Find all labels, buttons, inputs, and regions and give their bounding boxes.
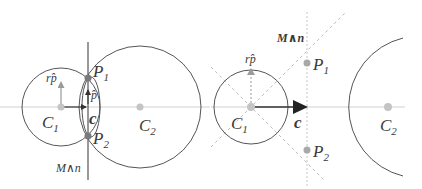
left-label-p2: P2: [92, 129, 109, 150]
left-label-c1: C1: [42, 113, 59, 134]
left-label-p1: P1: [92, 62, 109, 83]
right-c-arrowhead: [293, 100, 308, 114]
left-point-p1: [85, 75, 92, 82]
right-label-c: c: [294, 113, 302, 132]
left-point-c1: [58, 104, 65, 111]
left-label-p-hat: p̂: [90, 88, 97, 102]
right-point-p1: [304, 60, 311, 67]
right-point-c1: [247, 103, 255, 111]
circle-intersection-diagram: rp̂ p̂ c C1 C2 P1 P2 M∧n M∧n rp̂: [0, 0, 422, 189]
right-label-rp: rp̂: [245, 52, 256, 66]
left-point-c2: [137, 104, 144, 111]
left-point-p2: [85, 133, 92, 140]
right-label-c2: C2: [380, 116, 397, 137]
left-label-plane: M∧n: [55, 161, 81, 175]
left-label-rp: rp̂: [46, 71, 57, 85]
right-label-plane: M∧n: [276, 31, 304, 45]
right-label-c1: C1: [231, 114, 248, 135]
right-label-p1: P1: [312, 55, 329, 76]
right-label-p2: P2: [312, 142, 329, 163]
right-rp-arrowhead: [247, 68, 255, 75]
right-diagonal-descending: [211, 67, 325, 181]
right-panel: M∧n rp̂ C1 c C2 P1 P2: [211, 12, 405, 186]
right-point-c2: [384, 103, 392, 111]
left-panel: rp̂ p̂ c C1 C2 P1 P2 M∧n: [0, 42, 210, 180]
left-label-c2: C2: [139, 116, 156, 137]
left-label-c: c: [89, 109, 97, 128]
right-point-p2: [304, 147, 311, 154]
